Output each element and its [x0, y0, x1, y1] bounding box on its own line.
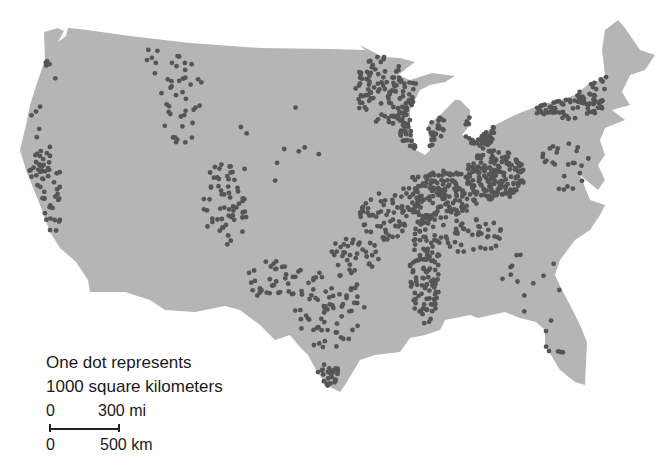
density-dot: [411, 268, 416, 273]
density-dot: [512, 187, 517, 192]
density-dot: [304, 313, 309, 318]
density-dot: [404, 214, 409, 219]
density-dot: [445, 200, 450, 205]
density-dot: [389, 101, 394, 106]
density-dot: [418, 256, 423, 261]
density-dot: [407, 80, 412, 85]
density-dot: [375, 224, 380, 229]
density-dot: [400, 229, 405, 234]
density-dot: [48, 216, 53, 221]
density-dot: [53, 76, 58, 81]
density-dot: [489, 196, 494, 201]
density-dot: [594, 87, 599, 92]
density-dot: [227, 207, 232, 212]
density-dot: [413, 237, 418, 242]
density-dot: [379, 101, 384, 106]
density-dot: [428, 130, 433, 135]
density-dot: [355, 301, 360, 306]
density-dot: [503, 184, 508, 189]
density-dot: [274, 266, 279, 271]
density-dot: [368, 70, 373, 75]
density-dot: [423, 284, 428, 289]
density-dot: [164, 102, 169, 107]
density-dot: [454, 227, 459, 232]
density-dot: [383, 198, 388, 203]
density-dot: [317, 270, 322, 275]
density-dot: [409, 139, 414, 144]
density-dot: [183, 61, 188, 66]
density-dot: [572, 98, 577, 103]
density-dot: [27, 168, 32, 173]
density-dot: [222, 205, 227, 210]
density-dot: [327, 302, 332, 307]
density-dot: [547, 349, 552, 354]
density-dot: [174, 93, 179, 98]
density-dot: [477, 170, 482, 175]
density-dot: [47, 62, 52, 67]
density-dot: [398, 79, 403, 84]
density-dot: [378, 60, 383, 65]
density-dot: [514, 158, 519, 163]
density-dot: [439, 178, 444, 183]
density-dot: [153, 60, 158, 65]
density-dot: [460, 208, 465, 213]
density-dot: [450, 178, 455, 183]
density-dot: [400, 210, 405, 215]
scale-bar: 0 300 mi 0 500 km: [46, 402, 206, 472]
density-dot: [416, 294, 421, 299]
density-dot: [571, 161, 576, 166]
density-dot: [408, 144, 413, 149]
density-dot: [494, 244, 499, 249]
density-dot: [410, 175, 415, 180]
density-dot: [155, 48, 160, 53]
density-dot: [38, 149, 43, 154]
density-dot: [593, 99, 598, 104]
density-dot: [355, 251, 360, 256]
density-dot: [432, 285, 437, 290]
density-dot: [482, 163, 487, 168]
density-dot: [508, 272, 513, 277]
density-dot: [471, 169, 476, 174]
density-dot: [398, 133, 403, 138]
density-dot: [478, 245, 483, 250]
density-dot: [418, 195, 423, 200]
density-dot: [437, 189, 442, 194]
density-dot: [496, 168, 501, 173]
density-dot: [432, 238, 437, 243]
density-dot: [452, 207, 457, 212]
density-dot: [42, 189, 47, 194]
density-dot: [420, 276, 425, 281]
density-dot: [454, 193, 459, 198]
density-dot: [346, 244, 351, 249]
density-dot: [393, 193, 398, 198]
density-dot: [331, 306, 336, 311]
density-dot: [171, 135, 176, 140]
density-dot: [397, 219, 402, 224]
density-dot: [412, 306, 417, 311]
density-dot: [34, 109, 39, 114]
density-dot: [369, 197, 374, 202]
density-dot: [541, 152, 546, 157]
density-dot: [43, 211, 48, 216]
density-dot: [381, 75, 386, 80]
density-dot: [386, 209, 391, 214]
density-dot: [208, 170, 213, 175]
density-dot: [364, 201, 369, 206]
legend-line-2: 1000 square kilometers: [46, 375, 223, 399]
density-dot: [368, 241, 373, 246]
density-dot: [571, 186, 576, 191]
density-dot: [232, 177, 237, 182]
density-dot: [465, 196, 470, 201]
density-dot: [405, 121, 410, 126]
density-dot: [420, 312, 425, 317]
density-dot: [341, 337, 346, 342]
density-dot: [322, 379, 327, 384]
density-dot: [377, 191, 382, 196]
density-dot: [357, 106, 362, 111]
density-dot: [312, 343, 317, 348]
density-dot: [432, 211, 437, 216]
density-dot: [573, 116, 578, 121]
density-dot: [404, 132, 409, 137]
density-dot: [57, 196, 62, 201]
density-dot: [44, 217, 49, 222]
